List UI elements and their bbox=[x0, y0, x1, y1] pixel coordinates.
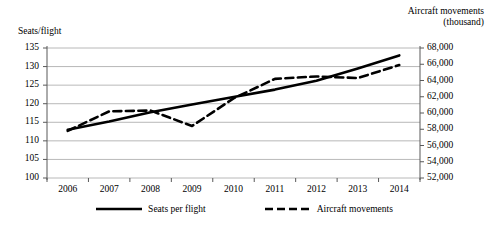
legend-item-seats-per-flight: Seats per flight bbox=[95, 204, 206, 214]
left-axis-tick-115: 115 bbox=[13, 116, 39, 126]
left-axis-tick-100: 100 bbox=[13, 172, 39, 182]
left-axis-tick-125: 125 bbox=[13, 79, 39, 89]
right-axis-tick-66000: 66,000 bbox=[427, 58, 463, 68]
x-axis-tick-2008: 2008 bbox=[131, 184, 171, 194]
legend-label-seats-per-flight: Seats per flight bbox=[148, 204, 206, 214]
chart-container: Seats/flight Aircraft movements (thousan… bbox=[0, 0, 488, 227]
x-axis-tick-2009: 2009 bbox=[172, 184, 212, 194]
x-axis-tick-2014: 2014 bbox=[379, 184, 419, 194]
right-axis-tick-56000: 56,000 bbox=[427, 140, 463, 150]
right-axis-tick-54000: 54,000 bbox=[427, 156, 463, 166]
legend-label-aircraft-movements: Aircraft movements bbox=[317, 204, 393, 214]
left-axis-tick-105: 105 bbox=[13, 153, 39, 163]
legend-swatch-dashed bbox=[264, 204, 312, 214]
x-axis-tick-2006: 2006 bbox=[48, 184, 88, 194]
x-axis-tick-2011: 2011 bbox=[255, 184, 295, 194]
x-axis-tick-2012: 2012 bbox=[296, 184, 336, 194]
right-axis-tick-64000: 64,000 bbox=[427, 75, 463, 85]
right-axis-tick-52000: 52,000 bbox=[427, 172, 463, 182]
x-axis-tick-2013: 2013 bbox=[338, 184, 378, 194]
left-axis-tick-130: 130 bbox=[13, 61, 39, 71]
right-axis-tick-58000: 58,000 bbox=[427, 123, 463, 133]
chart-legend: Seats per flight Aircraft movements bbox=[0, 198, 488, 220]
right-axis-tick-60000: 60,000 bbox=[427, 107, 463, 117]
left-axis-tick-135: 135 bbox=[13, 42, 39, 52]
legend-item-aircraft-movements: Aircraft movements bbox=[264, 204, 393, 214]
left-axis-tick-110: 110 bbox=[13, 135, 39, 145]
legend-swatch-solid bbox=[95, 204, 143, 214]
right-axis-tick-62000: 62,000 bbox=[427, 91, 463, 101]
tick-marks bbox=[43, 48, 424, 182]
x-axis-tick-2007: 2007 bbox=[89, 184, 129, 194]
right-axis-tick-68000: 68,000 bbox=[427, 42, 463, 52]
x-axis-tick-2010: 2010 bbox=[214, 184, 254, 194]
left-axis-tick-120: 120 bbox=[13, 98, 39, 108]
